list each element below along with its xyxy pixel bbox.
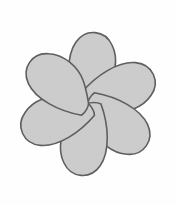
paper-grain-texture <box>0 0 176 205</box>
figure-canvas: Six-petal pinwheel rosette A radially sy… <box>0 0 176 205</box>
pinwheel-rosette-figure: Six-petal pinwheel rosette A radially sy… <box>0 0 176 205</box>
